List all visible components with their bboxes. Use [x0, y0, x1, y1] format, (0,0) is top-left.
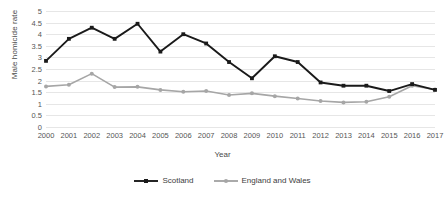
data-point — [159, 50, 163, 54]
legend-label: Scotland — [162, 176, 193, 185]
legend-label: England and Wales — [242, 176, 311, 185]
data-point — [296, 96, 300, 100]
data-point — [342, 84, 346, 88]
data-point — [341, 100, 345, 104]
legend-marker-icon — [134, 177, 158, 185]
data-point — [67, 37, 71, 41]
data-point — [227, 60, 231, 64]
y-axis-tick-label: 1.5 — [32, 88, 42, 97]
data-point — [136, 22, 140, 26]
data-point — [387, 95, 391, 99]
data-point — [364, 100, 368, 104]
data-point — [296, 60, 300, 64]
data-point — [90, 26, 94, 30]
x-axis-tick-label: 2007 — [198, 131, 215, 140]
data-point — [158, 88, 162, 92]
x-axis-tick-label: 2015 — [381, 131, 398, 140]
y-axis-tick-label: 3 — [38, 53, 42, 62]
data-point — [273, 54, 277, 58]
data-point — [387, 89, 391, 93]
y-axis-title: Male homicide rate — [10, 0, 19, 100]
data-point — [410, 82, 414, 86]
y-axis-tick-label: 4 — [38, 30, 42, 39]
data-point — [67, 83, 71, 87]
data-point — [250, 91, 254, 95]
legend-item-scotland[interactable]: Scotland — [134, 176, 193, 185]
data-point — [319, 99, 323, 103]
y-axis-tick-label: 5 — [38, 7, 42, 16]
data-point — [250, 76, 254, 80]
data-point — [113, 85, 117, 89]
data-point — [227, 93, 231, 97]
x-axis-tick-label: 2005 — [152, 131, 169, 140]
x-axis-tick-label: 2001 — [61, 131, 78, 140]
x-axis-tick-label: 2013 — [335, 131, 352, 140]
data-point — [181, 90, 185, 94]
x-axis-tick-label: 2000 — [38, 131, 55, 140]
data-point — [44, 59, 48, 63]
legend-item-england-and-wales[interactable]: England and Wales — [214, 176, 311, 185]
data-point — [433, 88, 437, 92]
gridline — [46, 127, 435, 128]
legend-marker-icon — [214, 177, 238, 185]
series-scotland — [44, 22, 437, 93]
x-axis-tick-label: 2011 — [290, 131, 306, 140]
x-axis-title: Year — [0, 150, 445, 159]
x-axis-tick-label: 2009 — [244, 131, 261, 140]
data-point — [319, 81, 323, 85]
x-axis-tick-label: 2004 — [129, 131, 146, 140]
series-layer — [46, 11, 435, 127]
plot-area: 00.511.522.533.544.55 200020012002200320… — [46, 11, 435, 127]
data-point — [273, 94, 277, 98]
y-axis-tick-label: 0.5 — [32, 111, 42, 120]
data-point — [136, 85, 140, 89]
chart-legend: ScotlandEngland and Wales — [0, 176, 445, 185]
y-axis-tick-label: 2.5 — [32, 65, 42, 74]
y-axis-tick-label: 4.5 — [32, 18, 42, 27]
y-axis-tick-label: 1 — [38, 99, 42, 108]
x-axis-tick-label: 2016 — [404, 131, 421, 140]
data-point — [204, 42, 208, 46]
x-axis-tick-label: 2006 — [175, 131, 192, 140]
x-axis-tick-label: 2008 — [221, 131, 238, 140]
x-axis-tick-label: 2017 — [427, 131, 444, 140]
y-axis-tick-label: 2 — [38, 76, 42, 85]
x-axis-tick-label: 2002 — [83, 131, 100, 140]
male-homicide-rate-line-chart: Male homicide rate 00.511.522.533.544.55… — [0, 0, 445, 199]
y-axis-tick-label: 3.5 — [32, 41, 42, 50]
data-point — [181, 32, 185, 36]
data-point — [364, 84, 368, 88]
data-point — [90, 72, 94, 76]
x-axis-tick-label: 2003 — [106, 131, 123, 140]
data-point — [44, 84, 48, 88]
x-axis-tick-label: 2010 — [266, 131, 283, 140]
data-point — [204, 89, 208, 93]
x-axis-tick-label: 2012 — [312, 131, 329, 140]
x-axis-tick-label: 2014 — [358, 131, 375, 140]
data-point — [113, 37, 117, 41]
